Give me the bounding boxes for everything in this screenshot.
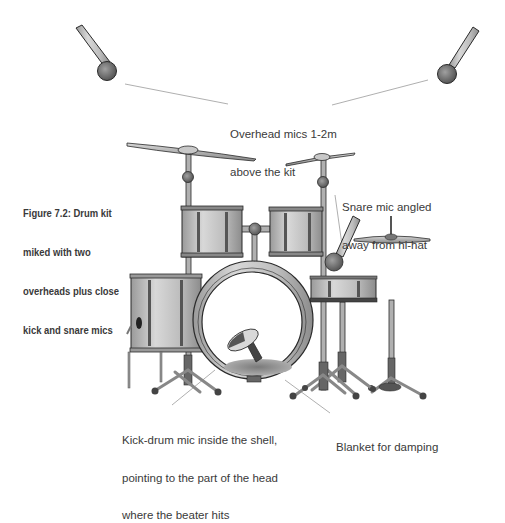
leader-overhead-left <box>125 84 228 104</box>
label-line: above the kit <box>230 166 337 179</box>
overhead-mic-right <box>438 27 480 84</box>
label-line: pointing to the part of the head <box>122 472 278 485</box>
blanket <box>224 359 292 375</box>
overhead-mics-label: Overhead mics 1-2m above the kit <box>230 103 337 191</box>
ride-stand-base <box>290 362 346 400</box>
label-line: away from hi-hat <box>342 239 432 252</box>
blanket-label: Blanket for damping <box>336 416 438 466</box>
figure-caption: Figure 7.2: Drum kit miked with two over… <box>23 181 140 350</box>
caption-line: miked with two <box>23 246 140 259</box>
label-line: Snare mic angled <box>342 201 432 214</box>
caption-line: kick and snare mics <box>23 324 140 337</box>
overhead-mic-left <box>76 25 117 81</box>
snare-drum <box>310 276 377 302</box>
label-line: Overhead mics 1-2m <box>230 128 337 141</box>
leader-overhead-right <box>332 80 428 105</box>
leader-snare <box>335 195 342 245</box>
label-line: Blanket for damping <box>336 441 438 454</box>
snare-mic-label: Snare mic angled away from hi-hat <box>342 176 432 264</box>
caption-line: Figure 7.2: Drum kit <box>23 207 140 220</box>
caption-line: overheads plus close <box>23 285 140 298</box>
rack-tom-right <box>269 207 323 256</box>
kick-mic-label: Kick-drum mic inside the shell, pointing… <box>122 409 278 523</box>
kick-drum <box>193 261 313 382</box>
label-line: Kick-drum mic inside the shell, <box>122 434 278 447</box>
label-line: where the beater hits <box>122 509 278 522</box>
rack-tom-left <box>181 206 243 257</box>
